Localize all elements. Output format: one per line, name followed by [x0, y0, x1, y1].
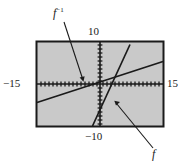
x-axis-max-label: 15 — [167, 78, 178, 89]
y-axis-min-label: −10 — [85, 131, 102, 142]
curve-label-f-inverse-exponent: −1 — [56, 6, 63, 14]
curve-label-f: f — [152, 148, 155, 160]
curve-label-f-inverse: f−1 — [53, 7, 64, 19]
x-axis-min-label: −15 — [3, 78, 20, 89]
graph-figure: 10 −10 −15 15 f−1 f — [0, 0, 181, 165]
y-axis-max-label: 10 — [88, 26, 99, 37]
